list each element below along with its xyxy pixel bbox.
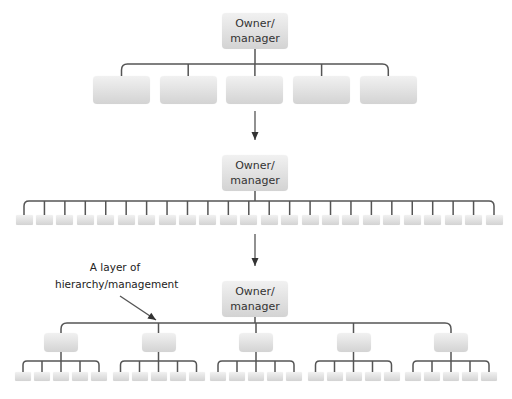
employee-box	[445, 215, 462, 225]
employee-box	[91, 372, 107, 381]
employee-box	[281, 215, 298, 225]
employee-box	[424, 215, 441, 225]
employee-box	[220, 215, 237, 225]
employee-box	[383, 215, 400, 225]
middle-manager-box	[142, 333, 176, 352]
employee-box	[248, 372, 264, 381]
employee-box	[199, 215, 216, 225]
bracket-line	[24, 201, 494, 215]
employee-box	[443, 372, 459, 381]
employee-box	[261, 215, 278, 225]
employee-box	[151, 372, 167, 381]
owner-manager-box: Owner/manager	[222, 155, 288, 191]
middle-manager-box	[239, 333, 273, 352]
middle-manager-box	[337, 333, 371, 352]
owner-manager-label-line: manager	[222, 172, 288, 189]
employee-box	[77, 215, 94, 225]
employee-box	[118, 215, 135, 225]
employee-box	[322, 215, 339, 225]
employee-box	[481, 372, 497, 381]
employee-box	[170, 372, 186, 381]
employee-box	[36, 215, 53, 225]
employee-box	[97, 215, 114, 225]
employee-box	[16, 215, 33, 225]
annotation-label: A layer of hierarchy/management	[55, 259, 175, 293]
employee-box	[210, 372, 226, 381]
employee-box	[286, 372, 302, 381]
transition-arrow-2-head	[252, 258, 259, 266]
employee-box	[363, 215, 380, 225]
annotation-arrow-head	[147, 313, 156, 320]
owner-manager-box: Owner/manager	[222, 13, 288, 49]
employee-box	[404, 215, 421, 225]
employee-box	[424, 372, 440, 381]
employee-box	[229, 372, 245, 381]
employee-box	[159, 215, 176, 225]
employee-box	[189, 372, 205, 381]
owner-manager-label-line: manager	[222, 298, 288, 315]
owner-manager-box: Owner/manager	[222, 281, 288, 317]
employee-box	[405, 372, 421, 381]
employee-box	[179, 215, 196, 225]
annotation-line-2: hierarchy/management	[55, 276, 175, 293]
transition-arrow-1-head	[252, 132, 259, 140]
employee-box	[72, 372, 88, 381]
employee-box	[132, 372, 148, 381]
employee-box	[465, 215, 482, 225]
employee-box	[462, 372, 478, 381]
employee-box	[160, 76, 217, 104]
employee-box	[342, 215, 359, 225]
employee-box	[113, 372, 129, 381]
employee-box	[56, 215, 73, 225]
employee-box	[34, 372, 50, 381]
employee-box	[267, 372, 283, 381]
employee-box	[293, 76, 350, 104]
employee-box	[93, 76, 150, 104]
annotation-line-1: A layer of	[55, 259, 175, 276]
employee-box	[327, 372, 343, 381]
employee-box	[302, 215, 319, 225]
middle-manager-box	[44, 333, 78, 352]
owner-manager-label-line: manager	[222, 30, 288, 47]
employee-box	[15, 372, 31, 381]
employee-box	[138, 215, 155, 225]
org-structure-diagram: Owner/managerOwner/managerOwner/manager …	[0, 0, 512, 399]
employee-box	[240, 215, 257, 225]
employee-box	[365, 372, 381, 381]
employee-box	[308, 372, 324, 381]
middle-manager-box	[434, 333, 468, 352]
employee-box	[346, 372, 362, 381]
employee-box	[384, 372, 400, 381]
employee-box	[486, 215, 503, 225]
employee-box	[360, 76, 417, 104]
employee-box	[53, 372, 69, 381]
employee-box	[226, 76, 283, 104]
